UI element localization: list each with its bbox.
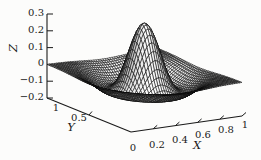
3d-surface-figure: 00.20.40.60.810.510.30.20.10−0.1−0.2XYZ xyxy=(0,0,261,160)
x-axis-label: X xyxy=(192,138,202,152)
axis-line xyxy=(89,112,92,116)
surface-plot-canvas: 00.20.40.60.810.510.30.20.10−0.1−0.2XYZ xyxy=(0,0,261,160)
x-tick-label: 1 xyxy=(242,119,248,130)
z-tick-label: −0.2 xyxy=(20,91,44,102)
x-tick-label: 0.4 xyxy=(172,134,188,145)
x-tick-label: 0.8 xyxy=(218,124,234,135)
axis-line xyxy=(242,113,246,117)
y-tick-label: 1 xyxy=(53,102,59,113)
z-tick-label: 0.1 xyxy=(28,41,44,52)
z-tick-label: −0.1 xyxy=(20,74,44,85)
x-tick-label: 0 xyxy=(130,142,136,153)
z-axis-label: Z xyxy=(6,43,20,53)
x-tick-label: 0.2 xyxy=(149,139,165,150)
surface-mesh-group xyxy=(47,23,242,102)
z-tick-label: 0.3 xyxy=(28,7,44,18)
z-tick-label: 0.2 xyxy=(28,24,44,35)
z-tick-label: 0 xyxy=(38,57,44,68)
